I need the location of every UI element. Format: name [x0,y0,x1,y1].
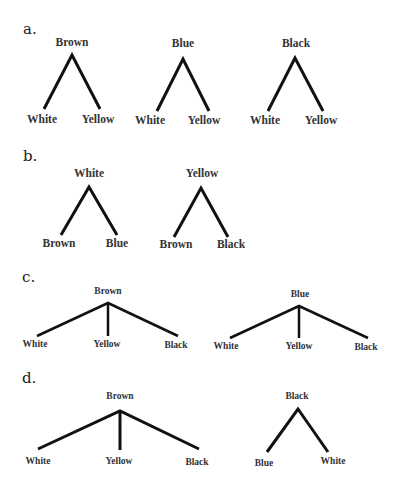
node-a2-left: White [135,114,165,126]
edges-b-yellow [174,188,228,237]
node-d1-root: Brown [106,391,133,401]
node-c1-right: Black [164,340,187,350]
node-b2-right: Black [217,238,245,250]
panel-label-d: d. [22,369,36,387]
node-a3-root: Black [282,37,310,49]
node-c2-left: White [214,341,239,351]
node-c1-root: Brown [94,286,121,296]
node-c1-left: White [23,339,48,349]
panel-label-b: b. [23,147,37,165]
panel-label-a: a. [23,20,37,38]
edges-b-white [61,187,117,235]
edges-a-blue [157,59,209,111]
node-d2-right: White [321,456,346,466]
edges-d-black [267,409,328,452]
node-c2-middle: Yellow [286,341,313,351]
node-b2-left: Brown [159,238,192,250]
node-d2-left: Blue [255,458,273,468]
panel-label-c: c. [22,268,35,286]
node-a1-left: White [27,113,57,125]
node-c2-root: Blue [291,289,309,299]
node-a1-root: Brown [55,36,88,48]
node-a2-root: Blue [172,37,194,49]
node-a3-left: White [250,114,280,126]
node-a1-right: Yellow [82,113,115,125]
node-a3-right: Yellow [305,114,338,126]
node-d1-right: Black [185,457,208,467]
node-d1-left: White [26,456,51,466]
node-c1-middle: Yellow [94,339,121,349]
edges-a-brown [44,55,100,109]
node-b1-root: White [74,167,104,179]
node-b1-right: Blue [106,237,128,249]
node-c2-right: Black [354,342,377,352]
node-b1-left: Brown [42,237,75,249]
node-b2-root: Yellow [186,167,219,179]
node-d2-root: Black [285,391,308,401]
edges-a-black [268,58,323,111]
node-a2-right: Yellow [188,114,221,126]
node-d1-middle: Yellow [106,456,133,466]
